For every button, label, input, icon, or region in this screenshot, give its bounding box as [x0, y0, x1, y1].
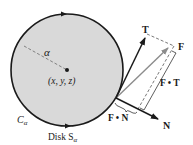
- n-label: N: [163, 120, 171, 131]
- radius-label: α: [44, 46, 50, 58]
- center-point-label: (x, y, z): [48, 76, 75, 87]
- circulation-diagram: α (x, y, z) Cα Disk Sα T F N F • T F • N: [0, 0, 193, 145]
- t-label: T: [142, 24, 149, 35]
- f-dot-t-label: F • T: [160, 78, 180, 88]
- f-dot-n-label: F • N: [108, 113, 129, 123]
- center-point: [65, 68, 69, 72]
- f-label: F: [178, 41, 184, 52]
- disk-label: Disk Sα: [48, 132, 78, 144]
- curve-label: Cα: [17, 114, 28, 127]
- f-vector: [116, 48, 168, 98]
- dashed-t-to-f: [147, 34, 174, 46]
- f-dot-n-brace: [115, 103, 137, 113]
- diagram-canvas: α (x, y, z) Cα Disk Sα T F N F • T F • N: [0, 0, 193, 145]
